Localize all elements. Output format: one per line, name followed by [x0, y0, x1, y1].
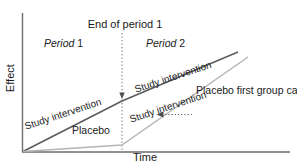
period-2-label: Period 2 — [146, 38, 185, 50]
period-2-number: 2 — [179, 37, 185, 49]
series-label-placebo: Placebo — [72, 125, 110, 137]
end-of-period-label: End of period 1 — [60, 18, 190, 30]
period-1-label: Period 1 — [44, 38, 83, 50]
period-divider-arrowhead — [119, 93, 124, 100]
x-axis-label: Time — [110, 151, 180, 163]
period-1-number: 1 — [77, 37, 83, 49]
period-2-word: Period — [146, 37, 176, 49]
placebo-first-line — [23, 57, 248, 152]
period-1-word: Period — [44, 37, 74, 49]
figure-canvas: Effect Time End of period 1 Period 1 Per… — [0, 0, 297, 167]
callout-annotation-text: Placebo first group catches up to study … — [196, 85, 294, 97]
y-axis-label: Effect — [4, 52, 16, 104]
